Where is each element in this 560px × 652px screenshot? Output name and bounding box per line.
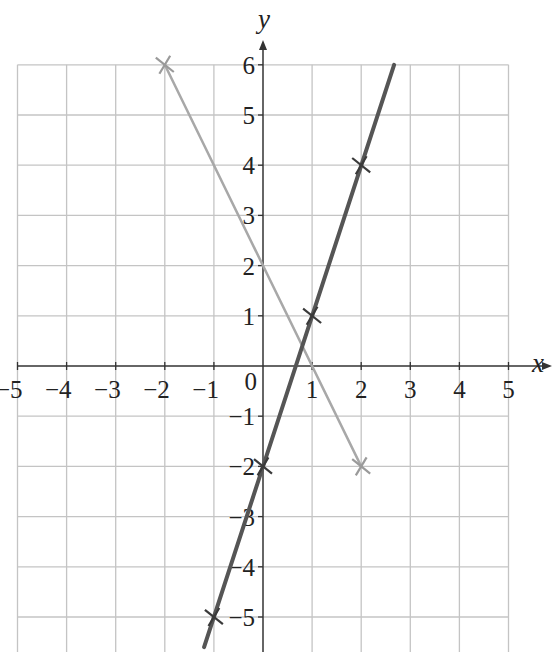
x-tick-label: 0 — [245, 368, 258, 395]
y-tick-label: 4 — [243, 152, 256, 179]
x-tick-label: 2 — [355, 376, 368, 403]
data-series — [156, 56, 394, 647]
x-tick-label: 4 — [453, 376, 466, 403]
x-tick-label: −3 — [94, 376, 121, 403]
y-tick-label: 5 — [243, 102, 256, 129]
x-tick-label: −2 — [143, 376, 170, 403]
x-tick-label: −1 — [192, 376, 219, 403]
line-segment — [204, 65, 394, 647]
y-tick-label: 1 — [243, 303, 256, 330]
y-tick-label: −2 — [228, 453, 255, 480]
x-tick-label: −4 — [45, 376, 72, 403]
tick-labels: −5−4−3−2−1012345−5−4−3−2−1123456 — [0, 52, 515, 631]
x-tick-label: −5 — [0, 376, 23, 403]
y-axis-label: y — [255, 4, 270, 34]
y-axis-arrow-icon — [259, 40, 267, 50]
series-line-dark — [204, 65, 394, 647]
y-tick-label: −1 — [228, 403, 255, 430]
y-tick-label: 6 — [243, 52, 256, 79]
x-axis-label: x — [531, 348, 544, 378]
coordinate-grid-chart: −5−4−3−2−1012345−5−4−3−2−1123456 x y — [0, 0, 560, 652]
x-tick-label: 5 — [502, 376, 515, 403]
axes — [18, 40, 553, 652]
y-tick-label: 2 — [243, 253, 256, 280]
y-tick-label: −5 — [228, 604, 255, 631]
x-tick-label: 1 — [306, 376, 319, 403]
x-tick-label: 3 — [404, 376, 417, 403]
